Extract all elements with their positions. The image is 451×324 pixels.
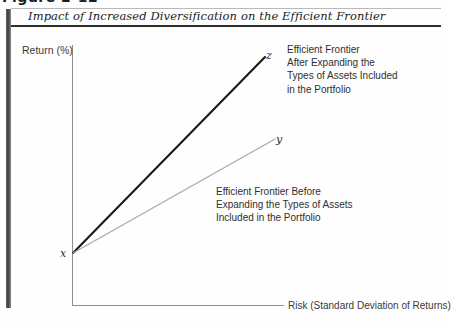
annotation-frontier-after: Efficient Frontier After Expanding the T… [287,43,437,96]
point-label-z: z [266,49,272,62]
y-axis-label: Return (%) [22,44,73,56]
x-axis-line [72,305,284,306]
point-label-y: y [276,133,282,146]
x-axis-label: Risk (Standard Deviation of Returns) [288,300,451,311]
annotation-frontier-before: Efficient Frontier Before Expanding the … [216,185,386,225]
point-label-x: x [60,247,66,260]
y-axis-line [72,45,73,306]
